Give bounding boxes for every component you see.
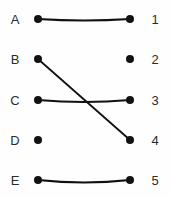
graph-node-label-5: 5 xyxy=(147,174,163,187)
graph-edge-e-5 xyxy=(38,180,130,183)
graph-edge-b-4 xyxy=(38,59,130,140)
graph-node-label-3: 3 xyxy=(147,94,163,107)
graph-node-label-4: 4 xyxy=(147,134,163,147)
graph-node-dot-a[interactable] xyxy=(34,15,42,23)
graph-node-dot-b[interactable] xyxy=(34,55,42,63)
graph-node-label-1: 1 xyxy=(147,13,163,26)
graph-node-dot-5[interactable] xyxy=(126,176,134,184)
graph-node-dot-1[interactable] xyxy=(126,15,134,23)
graph-node-dot-2[interactable] xyxy=(126,55,134,63)
graph-node-dot-c[interactable] xyxy=(34,96,42,104)
graph-node-label-e: E xyxy=(7,174,23,187)
graph-node-label-d: D xyxy=(7,134,23,147)
diagram-canvas: ABCDE12345 xyxy=(0,0,172,197)
graph-node-label-b: B xyxy=(7,53,23,66)
graph-node-dot-d[interactable] xyxy=(34,136,42,144)
graph-node-label-a: A xyxy=(7,13,23,26)
graph-node-label-2: 2 xyxy=(147,53,163,66)
edge-layer xyxy=(38,19,130,183)
graph-node-dot-4[interactable] xyxy=(126,136,134,144)
graph-node-label-c: C xyxy=(7,94,23,107)
graph-edge-a-1 xyxy=(38,19,130,21)
graph-node-dot-e[interactable] xyxy=(34,176,42,184)
graph-node-dot-3[interactable] xyxy=(126,96,134,104)
